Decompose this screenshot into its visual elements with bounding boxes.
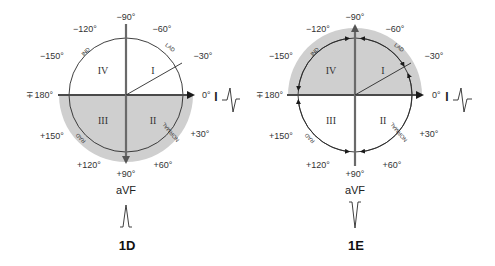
label-minus-60: −60° [386,24,405,34]
label-zero: 0° [202,90,211,100]
label-minus-90: −90° [346,12,365,22]
label-plus-150: +150° [40,131,64,141]
quadrant-iii: III [326,115,336,126]
arc-label-lad: LAD [164,42,176,53]
label-minus-90: −90° [117,12,136,22]
label-plus-30: +30° [420,129,439,139]
avf-waveform-positive [120,205,132,227]
quadrant-iii: III [98,115,108,126]
quadrant-iv: IV [326,65,337,76]
label-minus-120: −120° [306,24,330,34]
quadrant-iv: IV [98,65,109,76]
label-minus-30: −30° [425,51,444,61]
label-plus-minus-180: ∓180° [26,90,53,100]
lead-avf-label: aVF [116,184,136,196]
quadrant-ii: II [150,115,157,126]
normal-arc-arrow-bottom [361,143,385,152]
rad-arc-arrow [298,100,349,152]
label-plus-minus-180: ∓180° [256,90,283,100]
label-plus-90: +90° [117,169,136,179]
lead-i-label: I [445,90,448,104]
label-plus-120: +120° [77,160,101,170]
quadrant-i: I [381,65,384,76]
label-minus-120: −120° [73,24,97,34]
lead-avf-label: aVF [345,184,365,196]
lead-i-waveform [222,88,240,112]
panel-label-1e: 1E [348,238,364,253]
arc-label-normal: NORMAL [389,121,409,143]
label-plus-90: +90° [346,169,365,179]
label-minus-30: −30° [194,51,213,61]
label-plus-150: +150° [269,131,293,141]
label-plus-60: +60° [154,160,173,170]
panel-1d: −90° −60° −30° 0° +30° +60° +90° +120° +… [26,12,240,253]
label-minus-60: −60° [153,24,172,34]
avf-waveform-negative [349,202,361,228]
lead-i-waveform [453,88,472,112]
label-plus-120: +120° [306,160,330,170]
label-plus-60: +60° [383,160,402,170]
label-minus-150: −150° [40,51,64,61]
arc-label-ind: IND [80,46,91,57]
panel-label-1d: 1D [119,238,136,253]
panel-1e: −90° −60° −30° 0° +30° +60° +90° +120° +… [256,12,472,253]
label-minus-150: −150° [269,51,293,61]
label-zero: 0° [432,90,441,100]
quadrant-i: I [151,65,154,76]
quadrant-ii: II [380,115,387,126]
lead-i-label: I [214,90,217,104]
hexaxial-diagrams: −90° −60° −30° 0° +30° +60° +90° +120° +… [0,0,495,266]
label-plus-30: +30° [191,129,210,139]
